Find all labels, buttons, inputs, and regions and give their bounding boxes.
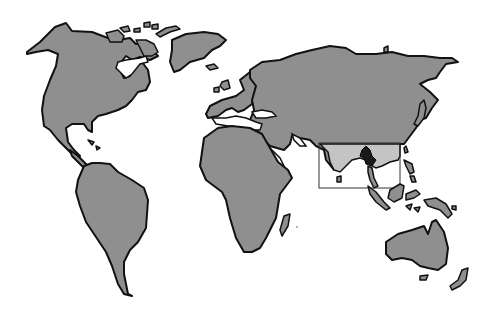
south-america [76, 163, 148, 296]
new-zealand [450, 268, 468, 290]
sakhalin [384, 46, 388, 52]
philippines [410, 176, 416, 182]
arctic-island [120, 26, 130, 32]
arctic-island [152, 24, 158, 29]
arctic-island [134, 28, 140, 32]
malay-peninsula [368, 166, 378, 188]
sulawesi [406, 190, 420, 200]
arctic-island [144, 22, 150, 27]
caribbean-island [96, 146, 100, 150]
speck [296, 226, 298, 228]
iceland [206, 64, 218, 70]
world-map-svg [0, 0, 494, 315]
sumatra [368, 186, 390, 210]
tasmania [420, 275, 428, 280]
borneo [388, 184, 404, 202]
caribbean-island [88, 140, 94, 145]
sri-lanka [337, 176, 341, 182]
java [406, 204, 412, 210]
ireland [214, 87, 219, 92]
uk [220, 80, 230, 90]
greenland [170, 32, 226, 72]
australia [386, 220, 448, 270]
arctic-island [156, 26, 180, 37]
new-guinea [424, 198, 452, 218]
timor [414, 207, 420, 212]
arctic-island [106, 30, 124, 42]
world-map: Southeast Asia / South Asia [0, 0, 494, 315]
philippines [404, 160, 414, 174]
taiwan [404, 146, 408, 153]
madagascar [280, 214, 290, 236]
island [452, 206, 456, 210]
